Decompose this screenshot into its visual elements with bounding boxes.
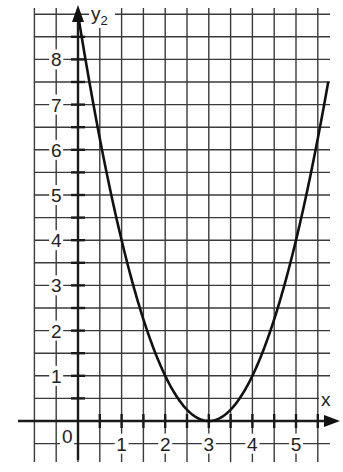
- y-tick-label: 5: [51, 185, 62, 206]
- x-tick-label: 4: [247, 434, 258, 455]
- x-axis-label: x: [321, 389, 331, 410]
- y-tick-label: 3: [51, 275, 62, 296]
- x-axis-arrow-icon: [324, 415, 340, 427]
- y-tick-label: 6: [51, 140, 62, 161]
- x-tick-label: 1: [116, 434, 127, 455]
- y-tick-label: 1: [51, 366, 62, 387]
- origin-label: 0: [62, 426, 73, 447]
- parabola-chart: x y2 0 1234512345678: [0, 0, 343, 472]
- y-tick-label: 2: [51, 321, 62, 342]
- y-axis: [72, 5, 84, 460]
- x-tick-label: 5: [291, 434, 302, 455]
- axis-labels: x y2 0 1234512345678: [49, 2, 335, 455]
- y-tick-label: 8: [51, 49, 62, 70]
- x-tick-label: 2: [160, 434, 171, 455]
- x-tick-label: 3: [204, 434, 215, 455]
- y-tick-label: 4: [51, 230, 62, 251]
- y-tick-label: 7: [51, 95, 62, 116]
- axis-ticks: [71, 37, 318, 428]
